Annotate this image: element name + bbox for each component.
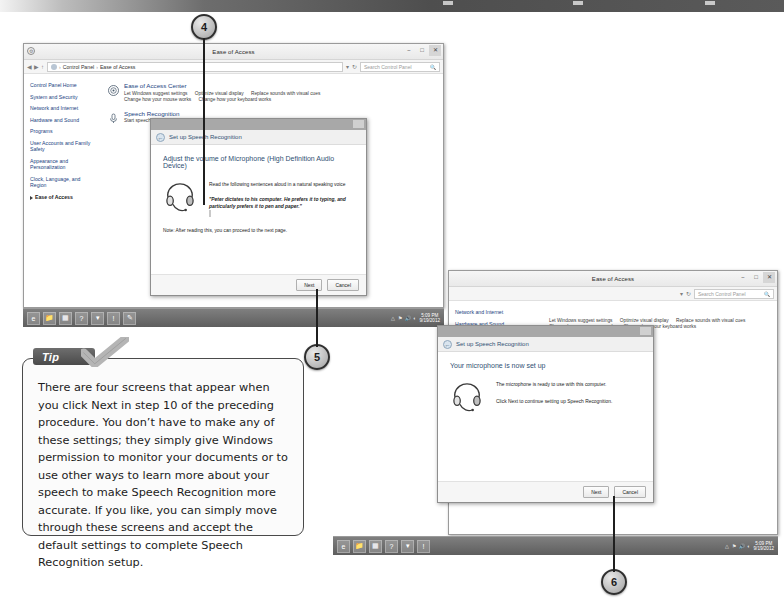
window1-nav-right[interactable]: ▾ ↻ Search Control Panel 🔍 <box>346 62 440 72</box>
taskbar-1[interactable]: e 📁 ▦ ? ▾ ! ✎ △ ⚑ 🔊 ◐ 5:09 PM 9/19/2012 <box>23 308 444 327</box>
internet-explorer-icon[interactable]: e <box>27 312 40 325</box>
link-replace-sounds-with-visual-cues[interactable]: Replace sounds with visual cues <box>251 91 320 96</box>
notice-icon[interactable]: ! <box>107 312 120 325</box>
window2-controls[interactable]: − □ ✕ <box>737 272 775 283</box>
category-title[interactable]: Speech Recognition <box>124 110 233 117</box>
dialog2-footer: Next Cancel <box>438 481 653 502</box>
pen-icon[interactable]: ✎ <box>123 312 136 325</box>
breadcrumb-icon <box>51 64 57 70</box>
link-change-how-your-mouse-works[interactable]: Change how your mouse works <box>124 97 191 102</box>
category-ease-of-access-center[interactable]: Ease of Access Center Let Windows sugges… <box>108 82 439 103</box>
clock-time: 5:09 PM <box>755 541 772 546</box>
refresh-icon[interactable]: ↻ <box>686 290 691 297</box>
link-replace-sounds-with-visual-cues[interactable]: Replace sounds with visual cues <box>676 318 745 323</box>
forward-icon[interactable]: ▶ <box>34 63 39 70</box>
sidebar-item-network-and-internet[interactable]: Network and Internet <box>30 105 98 112</box>
dropdown-icon[interactable]: ▾ <box>680 290 683 297</box>
window2-nav-right[interactable]: ▾ ↻ Search Control Panel 🔍 <box>680 289 774 299</box>
notice-icon[interactable]: ! <box>417 540 430 553</box>
speech-recognition-dialog-2[interactable]: ← Set up Speech Recognition Your microph… <box>437 325 654 503</box>
system-tray-2[interactable]: △ ⚑ 🔊 ◐ 5:09 PM 9/19/2012 <box>725 541 774 552</box>
window1-navbar[interactable]: ◀ ▶ ↑ › Control Panel › Ease of Access ▾… <box>24 60 443 74</box>
cancel-button[interactable]: Cancel <box>614 486 646 498</box>
sidebar-item-hardware-and-sound[interactable]: Hardware and Sound <box>30 117 98 124</box>
link-let-windows-suggest-settings[interactable]: Let Windows suggest settings <box>549 318 612 323</box>
sidebar-item-network-and-internet[interactable]: Network and Internet <box>455 309 523 316</box>
store-icon[interactable]: ▦ <box>369 540 382 553</box>
back-icon[interactable]: ◀ <box>27 63 32 70</box>
close-button[interactable]: ✕ <box>429 45 441 56</box>
tray-network-icon[interactable]: ◐ <box>414 315 417 321</box>
cancel-button[interactable]: Cancel <box>327 279 359 291</box>
sidebar-item-appearance[interactable]: Appearance and Personalization <box>30 158 98 171</box>
sidebar-item-clock-language-region[interactable]: Clock, Language, and Region <box>30 176 98 189</box>
link-optimize-visual-display[interactable]: Optimize visual display <box>620 318 669 323</box>
breadcrumb-root[interactable]: Control Panel <box>63 64 94 70</box>
taskbar-clock-1[interactable]: 5:09 PM 9/19/2012 <box>420 313 440 324</box>
window1-title: Ease of Access <box>212 49 254 55</box>
breadcrumb-separator: › <box>96 64 98 70</box>
speech-recognition-dialog-1[interactable]: ← Set up Speech Recognition Adjust the v… <box>150 118 367 296</box>
minimize-button[interactable]: − <box>737 272 749 283</box>
tray-arrow-icon[interactable]: △ <box>725 543 729 549</box>
sidebar-item-user-accounts[interactable]: User Accounts and Family Safety <box>30 140 98 153</box>
system-tray-1[interactable]: △ ⚑ 🔊 ◐ 5:09 PM 9/19/2012 <box>391 313 440 324</box>
file-explorer-icon[interactable]: 📁 <box>353 540 366 553</box>
dialog2-caption[interactable] <box>438 326 653 337</box>
headset-icon <box>163 181 197 215</box>
window1-titlebar[interactable]: ⚙ Ease of Access − □ ✕ <box>24 44 443 60</box>
link-change-how-your-keyboard-works[interactable]: Change how your keyboard works <box>199 97 272 102</box>
callout-5-leader <box>316 289 319 347</box>
breadcrumb[interactable]: › Control Panel › Ease of Access <box>47 62 343 72</box>
tray-volume-icon[interactable]: 🔊 <box>739 543 745 549</box>
dropdown-icon[interactable]: ▾ <box>346 63 349 70</box>
clock-time: 5:09 PM <box>421 313 438 318</box>
dialog1-caption[interactable] <box>151 119 366 130</box>
maximize-button[interactable]: □ <box>416 45 428 56</box>
tray-flag-icon[interactable]: ⚑ <box>398 315 402 321</box>
maximize-button[interactable]: □ <box>750 272 762 283</box>
close-icon[interactable] <box>353 120 364 128</box>
tray-network-icon[interactable]: ◐ <box>748 543 751 549</box>
window1-sidebar[interactable]: Control Panel Home System and Security N… <box>24 74 102 307</box>
next-button[interactable]: Next <box>296 279 322 291</box>
window1-controls[interactable]: − □ ✕ <box>403 45 441 56</box>
breadcrumb-current[interactable]: Ease of Access <box>100 64 135 70</box>
taskbar-2[interactable]: e 📁 ▦ ? ▾ ! △ ⚑ 🔊 ◐ 5:09 PM 9/19/2012 <box>333 536 778 555</box>
tray-arrow-icon[interactable]: △ <box>391 315 395 321</box>
refresh-icon[interactable]: ↻ <box>352 63 357 70</box>
category-links[interactable]: Let Windows suggest settings Optimize vi… <box>124 91 326 103</box>
nav-arrows[interactable]: ◀ ▶ ↑ <box>27 63 44 70</box>
minimize-button[interactable]: − <box>403 45 415 56</box>
search-input[interactable]: Search Control Panel 🔍 <box>694 289 774 299</box>
search-input[interactable]: Search Control Panel 🔍 <box>360 62 440 72</box>
back-icon[interactable]: ← <box>443 340 452 349</box>
tray-flag-icon[interactable]: ⚑ <box>732 543 736 549</box>
sidebar-item-system-and-security[interactable]: System and Security <box>30 94 98 101</box>
category-title[interactable]: Ease of Access Center <box>124 82 326 89</box>
up-icon[interactable]: ↑ <box>41 64 44 70</box>
network-icon[interactable]: ▾ <box>401 540 414 553</box>
file-explorer-icon[interactable]: 📁 <box>43 312 56 325</box>
next-button[interactable]: Next <box>583 486 609 498</box>
help-icon[interactable]: ? <box>75 312 88 325</box>
tray-volume-icon[interactable]: 🔊 <box>405 315 411 321</box>
dialog2-heading: Your microphone is now set up <box>450 362 641 369</box>
internet-explorer-icon[interactable]: e <box>337 540 350 553</box>
window2-titlebar[interactable]: Ease of Access − □ ✕ <box>449 271 777 287</box>
sidebar-item-control-panel-home[interactable]: Control Panel Home <box>30 82 98 89</box>
sidebar-item-programs[interactable]: Programs <box>30 128 98 135</box>
network-icon[interactable]: ▾ <box>91 312 104 325</box>
store-icon[interactable]: ▦ <box>59 312 72 325</box>
help-icon[interactable]: ? <box>385 540 398 553</box>
sidebar-item-ease-of-access[interactable]: Ease of Access <box>30 194 98 201</box>
dialog1-sample-sentence: "Peter dictates to his computer. He pref… <box>209 196 354 210</box>
close-icon[interactable] <box>640 327 651 335</box>
callout-4-leader <box>203 38 206 205</box>
taskbar-clock-2[interactable]: 5:09 PM 9/19/2012 <box>754 541 774 552</box>
callout-6: 6 <box>601 569 627 595</box>
back-icon[interactable]: ← <box>156 133 165 142</box>
link-let-windows-suggest-settings[interactable]: Let Windows suggest settings <box>124 91 187 96</box>
close-button[interactable]: ✕ <box>763 272 775 283</box>
window2-navbar[interactable]: ▾ ↻ Search Control Panel 🔍 <box>449 287 777 301</box>
